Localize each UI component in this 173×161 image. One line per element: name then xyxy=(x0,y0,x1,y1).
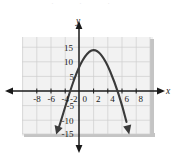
x-tick-label-2: 2 xyxy=(96,94,101,104)
x-axis-arrow-right xyxy=(157,88,165,95)
x-tick-label-neg6: -6 xyxy=(47,94,55,104)
y-tick-label-neg5: -5 xyxy=(67,101,75,111)
y-axis-arrow-bottom xyxy=(76,145,83,153)
parabola-figure: · · · xyxy=(0,0,173,161)
plot-face xyxy=(22,37,150,134)
x-tick-label-neg8: -8 xyxy=(33,94,41,104)
x-axis-arrow-left xyxy=(5,88,13,95)
y-axis-label: y xyxy=(75,16,81,26)
y-tick-label-5: 5 xyxy=(70,72,75,82)
y-tick-label-neg15: -15 xyxy=(62,129,74,139)
x-tick-label-6: 6 xyxy=(124,94,129,104)
graph-canvas: -8 -6 -4 -2 2 4 6 8 0 15 10 5 -5 -10 -15… xyxy=(0,0,173,161)
y-tick-label-15: 15 xyxy=(64,43,74,53)
x-tick-label-8: 8 xyxy=(139,94,144,104)
shadow-right xyxy=(150,39,154,136)
x-axis-label: x xyxy=(165,86,171,96)
x-tick-label-4: 4 xyxy=(110,94,115,104)
origin-label: 0 xyxy=(83,94,88,104)
y-tick-label-neg10: -10 xyxy=(62,116,74,126)
y-tick-label-10: 10 xyxy=(64,57,74,67)
